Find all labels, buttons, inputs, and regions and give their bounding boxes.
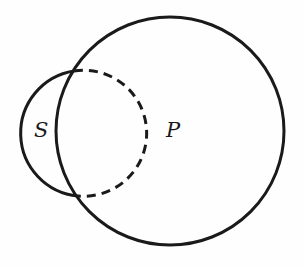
label-p: P [165, 118, 181, 142]
venn-diagram: S P [0, 0, 303, 268]
label-s: S [34, 118, 48, 142]
circle-s-dashed-arc [74, 70, 147, 196]
venn-svg: S P [0, 0, 303, 268]
circle-s-solid-arc [21, 71, 78, 196]
